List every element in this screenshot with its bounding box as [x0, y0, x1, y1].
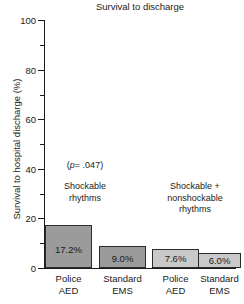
x-tick-label-4-line1: Standard [192, 273, 244, 285]
bar-value-label-1: 17.2% [45, 245, 92, 255]
chart-title: Survival to discharge [44, 1, 236, 12]
y-tick-label-0: 0 [0, 264, 36, 274]
x-tick-label-standard-ems-1: Standard EMS [95, 273, 150, 297]
group-label-shockable-nonshockable: Shockable + nonshockable rhythms [150, 181, 240, 216]
x-tick-label-4-line2: EMS [192, 285, 244, 297]
x-axis-line [44, 268, 236, 269]
group-label-shockable: Shockable rhythms [48, 181, 122, 204]
x-tick-label-2-line1: Standard [95, 273, 150, 285]
group2-line3: rhythms [179, 204, 211, 214]
p-value-annotation: (p= .047) [48, 160, 122, 171]
bar-value-label-4: 6.0% [198, 256, 241, 266]
p-value-rest: = .047) [75, 160, 103, 170]
y-tick-label-100: 100 [0, 16, 36, 26]
x-tick-label-police-aed-1: Police AED [43, 273, 94, 297]
x-tick-label-1-line1: Police [43, 273, 94, 285]
x-tick-label-2-line2: EMS [95, 285, 150, 297]
y-tick-minor-10 [40, 243, 44, 244]
y-tick-major-100 [38, 20, 44, 21]
group1-line1: Shockable [64, 181, 106, 191]
group2-line1: Shockable + [170, 181, 220, 191]
x-tick-label-1-line2: AED [43, 285, 94, 297]
y-tick-major-40 [38, 169, 44, 170]
group1-line2: rhythms [69, 193, 101, 203]
y-tick-minor-90 [40, 45, 44, 46]
x-tick-label-standard-ems-2: Standard EMS [192, 273, 244, 297]
group2-line2: nonshockable [167, 193, 223, 203]
y-tick-minor-30 [40, 194, 44, 195]
bar-value-label-2: 9.0% [99, 254, 146, 264]
y-tick-major-80 [38, 70, 44, 71]
y-tick-major-0 [38, 268, 44, 269]
y-tick-minor-50 [40, 144, 44, 145]
y-tick-minor-70 [40, 95, 44, 96]
y-tick-major-60 [38, 119, 44, 120]
y-tick-major-20 [38, 218, 44, 219]
bar-value-label-3: 7.6% [152, 254, 199, 264]
bar-chart-figure: Survival to discharge 0 20 40 60 80 100 … [0, 0, 244, 304]
y-axis-title: Survival to hospital discharge (%) [12, 69, 22, 229]
